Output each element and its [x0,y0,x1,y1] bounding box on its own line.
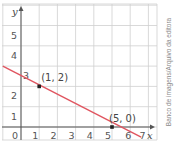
y-tick-label: 2 [11,90,17,101]
y-tick-label: 4 [11,50,17,61]
x-tick-label: 7 [139,130,145,141]
x-tick-label: 5 [105,130,111,141]
x-tick-label: 2 [50,130,56,141]
image-credit: Banco de imagens/Arquivo da editora [165,18,172,126]
x-tick-label: 4 [87,130,93,141]
chart: xy0123456712345(1, 2)(5, 0) [0,0,181,144]
x-tick-label: 1 [32,130,38,141]
data-point [37,85,41,89]
x-tick-label: 0 [12,130,18,141]
y-tick-label: 5 [11,30,17,41]
y-axis-label: y [11,6,18,17]
y-tick-label: 1 [11,111,17,122]
data-point [110,125,114,129]
x-tick-label: 3 [69,130,75,141]
x-axis-arrow-icon [150,125,155,130]
data-point-label: (5, 0) [109,113,136,124]
series-line [3,66,141,137]
y-axis-arrow-icon [19,6,24,11]
data-point-label: (1, 2) [41,72,68,83]
x-axis-label: x [147,130,153,141]
